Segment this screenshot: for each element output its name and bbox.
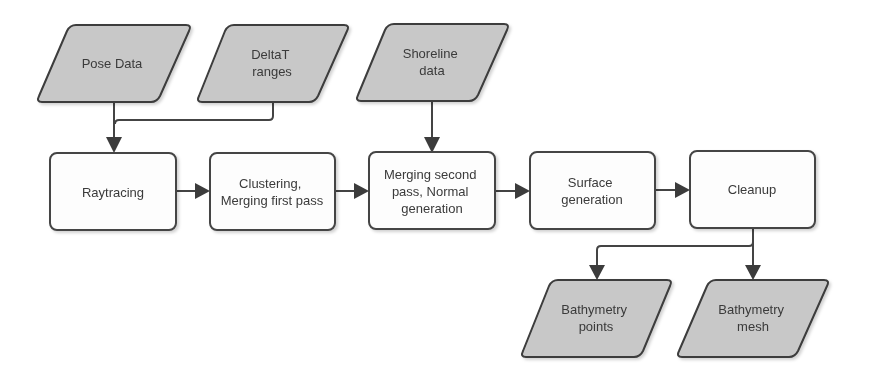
node-label: Raytracing — [82, 185, 144, 200]
input-pose-data[interactable]: Pose Data — [38, 25, 190, 102]
output-bathymetry-mesh[interactable]: Bathymetry mesh — [678, 280, 828, 357]
process-clustering[interactable]: Clustering, Merging first pass — [210, 153, 335, 230]
process-merging-second-pass[interactable]: Merging second pass, Normal generation — [369, 152, 495, 229]
node-label: Pose Data — [82, 56, 143, 71]
edge-deltat-to-raytracing — [115, 102, 273, 124]
input-deltat-ranges[interactable]: DeltaT ranges — [198, 25, 348, 102]
process-raytracing[interactable]: Raytracing — [50, 153, 176, 230]
flowchart-canvas: Pose Data DeltaT ranges Shoreline data R… — [0, 0, 870, 383]
arrowhead-icon — [745, 265, 761, 280]
arrowhead-icon — [354, 183, 369, 199]
process-surface-generation[interactable]: Surface generation — [530, 152, 655, 229]
arrowhead-icon — [675, 182, 690, 198]
arrowhead-icon — [589, 265, 605, 280]
output-bathymetry-points[interactable]: Bathymetry points — [522, 280, 671, 357]
arrowhead-icon — [195, 183, 210, 199]
arrowhead-icon — [424, 137, 440, 153]
arrowhead-icon — [106, 137, 122, 153]
node-label: Cleanup — [728, 182, 776, 197]
process-cleanup[interactable]: Cleanup — [690, 151, 815, 228]
arrowhead-icon — [515, 183, 530, 199]
input-shoreline-data[interactable]: Shoreline data — [357, 24, 508, 101]
edge-cleanup-to-points — [597, 242, 753, 266]
